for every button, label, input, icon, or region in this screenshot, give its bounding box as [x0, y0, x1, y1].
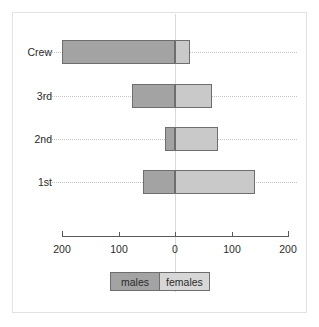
bar-segment-females-crew: [175, 40, 190, 64]
x-axis-tick-label: 0: [155, 243, 195, 255]
x-axis-tick: [288, 231, 289, 237]
bar-segment-females-3rd: [175, 84, 212, 108]
x-axis-tick: [232, 232, 233, 237]
bar-segment-males-2nd: [165, 127, 175, 151]
legend-swatch-females: females: [160, 273, 209, 290]
x-axis-tick-label: 100: [99, 243, 139, 255]
x-axis-tick: [175, 232, 176, 237]
pyramid-chart-figure: Crew3rd2nd1st 2001000100200 males female…: [0, 0, 319, 327]
legend: males females: [110, 272, 210, 291]
category-label-crew: Crew: [0, 46, 52, 58]
bar-segment-females-1st: [175, 170, 255, 194]
x-axis-tick: [62, 231, 63, 237]
category-label-1st: 1st: [0, 176, 52, 188]
legend-label-females: females: [166, 276, 203, 288]
category-label-2nd: 2nd: [0, 133, 52, 145]
bar-segment-females-2nd: [175, 127, 218, 151]
x-axis-tick: [119, 232, 120, 237]
x-axis-tick-label: 200: [42, 243, 82, 255]
bar-segment-males-1st: [143, 170, 175, 194]
plot-area: Crew3rd2nd1st 2001000100200 males female…: [0, 0, 319, 327]
bar-segment-males-crew: [62, 40, 175, 64]
x-axis-tick-label: 200: [268, 243, 308, 255]
bar-segment-males-3rd: [132, 84, 175, 108]
category-label-3rd: 3rd: [0, 90, 52, 102]
legend-swatch-males: males: [111, 273, 160, 290]
legend-label-males: males: [121, 276, 149, 288]
x-axis-tick-label: 100: [212, 243, 252, 255]
